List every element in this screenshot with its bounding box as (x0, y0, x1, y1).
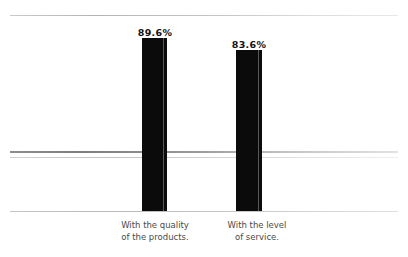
category-label-service: With the level of service. (202, 220, 312, 243)
bar-chart: 89.6% 83.6% With the quality of the prod… (0, 0, 408, 257)
value-label-quality: 89.6% (124, 27, 186, 38)
bar-quality (142, 38, 167, 211)
category-label-quality: With the quality of the products. (100, 220, 210, 243)
category-label-service-line-2: of service. (202, 232, 312, 244)
mid-rule-lower (10, 157, 398, 158)
value-label-service: 83.6% (218, 39, 280, 50)
mid-rule-upper (10, 151, 398, 153)
category-label-service-line-1: With the level (202, 220, 312, 232)
bar-service (236, 50, 262, 211)
baseline-rule (10, 211, 398, 212)
top-rule (10, 15, 398, 16)
category-label-quality-line-2: of the products. (100, 232, 210, 244)
category-label-quality-line-1: With the quality (100, 220, 210, 232)
